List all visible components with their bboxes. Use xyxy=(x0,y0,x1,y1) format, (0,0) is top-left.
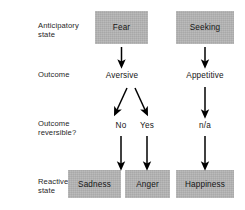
arrow-aversive-to-yes xyxy=(135,88,146,112)
row-label-anticipatory-state: Anticipatory state xyxy=(38,22,79,39)
node-anger-label: Anger xyxy=(136,180,159,189)
node-sadness-label: Sadness xyxy=(78,180,111,189)
node-na: n/a xyxy=(188,121,222,130)
node-happiness: Happiness xyxy=(176,170,234,198)
arrow-aversive-to-no xyxy=(116,88,127,112)
row-label-outcome: Outcome xyxy=(38,71,70,80)
node-fear-label: Fear xyxy=(113,23,130,32)
node-sadness: Sadness xyxy=(68,170,121,198)
node-seeking: Seeking xyxy=(176,11,234,44)
node-appetitive: Appetitive xyxy=(176,71,234,80)
row-label-reactive-state: Reactive state xyxy=(38,178,68,195)
row-label-outcome-reversible: Outcome reversible? xyxy=(38,120,76,137)
node-fear: Fear xyxy=(95,11,148,44)
node-seeking-label: Seeking xyxy=(190,23,221,32)
node-anger: Anger xyxy=(125,170,170,198)
node-aversive: Aversive xyxy=(96,71,148,80)
node-happiness-label: Happiness xyxy=(185,180,225,189)
node-yes: Yes xyxy=(130,121,164,130)
flowchart-diagram: Anticipatory state Outcome Outcome rever… xyxy=(0,0,245,210)
